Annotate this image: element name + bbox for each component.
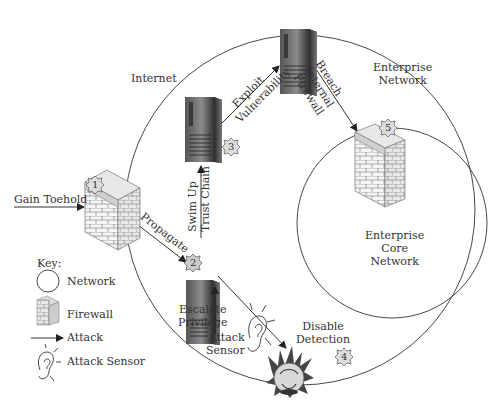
explosion-icon <box>266 346 314 398</box>
key-label-firewall: Firewall <box>67 308 113 321</box>
node-label-line: Sensor <box>206 344 245 357</box>
node-label-line: Escalate <box>178 303 228 316</box>
attack-sensor-ear-icon <box>248 303 275 351</box>
node-label-line: Disable <box>296 320 350 333</box>
node-label-escalate-privilege: Escalate Privilege <box>178 303 228 329</box>
key-label-attack: Attack <box>67 331 103 344</box>
badge-number-1: 1 <box>92 178 98 191</box>
region-label-enterprise-network: Enterprise Network <box>373 61 432 87</box>
region-label-line: Enterprise <box>365 229 424 242</box>
node-label-attack-sensor: Attack Sensor <box>206 331 245 357</box>
key-label-network: Network <box>67 275 116 288</box>
region-label-enterprise-core-network: Enterprise Core Network <box>365 229 424 268</box>
edge-label-swim-up: Swim Up Trust Chain <box>186 166 212 232</box>
badge-number-4: 4 <box>341 350 347 363</box>
firewall-icon <box>355 124 405 207</box>
key-label-attack-sensor: Attack Sensor <box>67 355 145 368</box>
region-label-line: Network <box>373 74 432 87</box>
region-label-line: Network <box>365 255 424 268</box>
ear-icon <box>38 344 61 381</box>
badge-number-3: 3 <box>228 140 234 153</box>
node-label-line: Privilege <box>178 316 228 329</box>
node-label-line: Detection <box>296 333 350 346</box>
node-label-disable-detection: Disable Detection <box>296 320 350 346</box>
region-label-line: Enterprise <box>373 61 432 74</box>
badge-number-2: 2 <box>190 256 196 269</box>
region-label-line: Core <box>365 242 424 255</box>
edge-label-line: Trust Chain <box>199 166 212 232</box>
server-icon <box>185 97 222 163</box>
network-circle-icon <box>37 270 59 292</box>
edge-label-line: Swim Up <box>186 166 199 232</box>
badge-number-5: 5 <box>385 121 391 134</box>
key-title: Key: <box>37 257 61 270</box>
firewall-icon <box>37 296 59 325</box>
node-label-line: Attack <box>206 331 245 344</box>
edge-label-gain-toehold: Gain Toehold <box>14 193 87 206</box>
region-label-internet: Internet <box>131 72 177 85</box>
